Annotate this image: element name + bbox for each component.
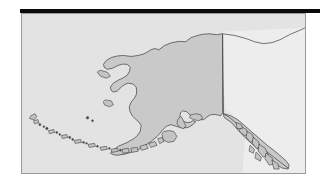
nunivak-island [103, 100, 113, 107]
map-frame [21, 13, 306, 174]
alaska-map [22, 14, 305, 173]
pribilof-islands [86, 116, 93, 121]
figure-root: Alaska [0, 0, 330, 183]
st-lawrence-island [97, 70, 110, 78]
